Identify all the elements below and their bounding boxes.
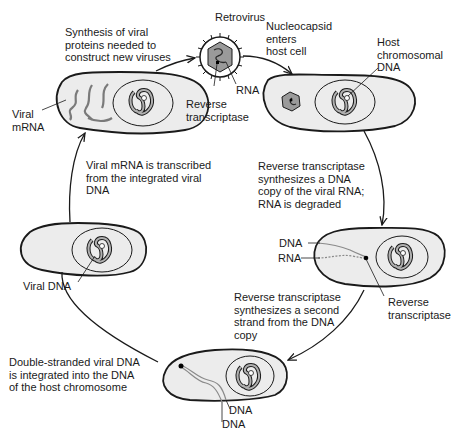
integration-step-label: Double-stranded viral DNA is integrated …	[9, 356, 140, 394]
reverse-transcriptase-top-label: Reverse transcriptase	[186, 98, 249, 123]
cell-double-stranded-dna	[163, 349, 287, 422]
dna-strand-2-label: DNA	[222, 418, 245, 431]
rna-label: RNA	[236, 84, 259, 97]
mrna-transcribed-step-label: Viral mRNA is transcribed from the integ…	[86, 159, 211, 197]
dna-label-cell3: DNA	[279, 237, 302, 250]
cell-integrated-viral-dna	[21, 223, 146, 282]
viral-mrna-label: Viral mRNA	[12, 108, 44, 133]
arrow-to-host-cell	[243, 56, 292, 74]
cell-reverse-transcription	[301, 228, 445, 296]
arrow-to-transcription	[70, 133, 85, 222]
reverse-transcriptase-cell3-label: Reverse transcriptase	[388, 296, 451, 321]
rna-label-cell3: RNA	[278, 252, 301, 265]
viral-dna-label: Viral DNA	[23, 280, 71, 293]
retrovirus-life-cycle-diagram: Retrovirus RNA Reverse transcriptase Syn…	[0, 0, 460, 440]
cell-viral-mrna	[42, 72, 208, 133]
second-strand-step-label: Reverse transcriptase synthesizes a seco…	[234, 291, 341, 341]
host-chromosomal-dna-label: Host chromosomal DNA	[377, 36, 443, 74]
retrovirus-particle	[196, 33, 244, 86]
cell-nucleocapsid-entry	[264, 68, 415, 131]
synthesis-step-label: Synthesis of viral proteins needed to co…	[65, 26, 171, 64]
arrow-integration-path	[62, 272, 158, 362]
dna-strand-1-label: DNA	[229, 404, 252, 417]
arrow-to-reverse-transcription	[364, 131, 384, 225]
nucleocapsid-step-label: Nucleocapsid enters host cell	[266, 20, 332, 58]
rt-dna-copy-step-label: Reverse transcriptase synthesizes a DNA …	[258, 160, 365, 210]
retrovirus-label: Retrovirus	[215, 11, 265, 24]
